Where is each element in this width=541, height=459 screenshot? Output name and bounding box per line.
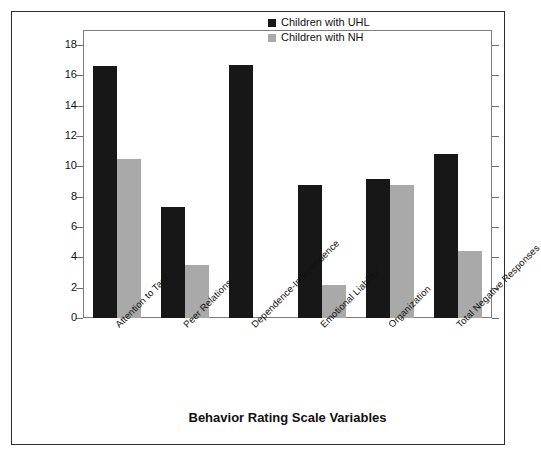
y-axis-tick bbox=[76, 288, 83, 289]
y-axis-tick-label: 18 bbox=[37, 39, 77, 50]
y-axis-tick bbox=[76, 136, 83, 137]
y-axis-tick-right bbox=[492, 45, 499, 46]
y-axis-tick-right bbox=[492, 166, 499, 167]
legend-swatch-nh bbox=[268, 34, 276, 42]
y-axis-tick-label: 12 bbox=[37, 130, 77, 141]
y-axis-tick bbox=[76, 197, 83, 198]
y-axis-tick-label: 2 bbox=[37, 282, 77, 293]
y-axis-tick-right bbox=[492, 136, 499, 137]
y-axis-tick-label: 0 bbox=[37, 312, 77, 323]
bar bbox=[434, 154, 458, 318]
y-axis-tick-right bbox=[492, 257, 499, 258]
y-axis-tick-right bbox=[492, 227, 499, 228]
y-axis-tick-label: 6 bbox=[37, 221, 77, 232]
y-axis-tick-right bbox=[492, 75, 499, 76]
y-axis-tick-right bbox=[492, 197, 499, 198]
y-axis-tick-label: 16 bbox=[37, 69, 77, 80]
legend-label-nh: Children with NH bbox=[281, 32, 364, 43]
legend: Children with UHL Children with NH bbox=[268, 17, 370, 47]
y-axis-tick-right bbox=[492, 106, 499, 107]
bar bbox=[161, 207, 185, 318]
y-axis-tick bbox=[76, 106, 83, 107]
legend-item: Children with NH bbox=[268, 32, 370, 43]
y-axis-tick bbox=[76, 257, 83, 258]
plot-area: 024681012141618 bbox=[83, 30, 492, 318]
legend-swatch-uhl bbox=[268, 19, 276, 27]
x-axis-title: Behavior Rating Scale Variables bbox=[83, 410, 492, 425]
y-axis-tick bbox=[76, 75, 83, 76]
bar bbox=[229, 65, 253, 318]
y-axis-tick bbox=[76, 227, 83, 228]
y-axis-tick-label: 4 bbox=[37, 251, 77, 262]
y-axis-tick-label: 14 bbox=[37, 100, 77, 111]
y-axis-tick bbox=[76, 166, 83, 167]
bar bbox=[93, 66, 117, 318]
legend-item: Children with UHL bbox=[268, 17, 370, 28]
bar bbox=[366, 179, 390, 318]
legend-label-uhl: Children with UHL bbox=[281, 17, 370, 28]
y-axis-tick-label: 10 bbox=[37, 160, 77, 171]
y-axis-tick bbox=[76, 318, 83, 319]
y-axis-tick-label: 8 bbox=[37, 191, 77, 202]
y-axis-tick bbox=[76, 45, 83, 46]
bar bbox=[117, 159, 141, 318]
y-axis-tick-right bbox=[492, 318, 499, 319]
